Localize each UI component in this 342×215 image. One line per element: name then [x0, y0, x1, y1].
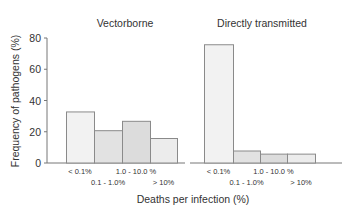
panel-title: Vectorborne: [97, 17, 154, 29]
y-tick-label: 80: [29, 32, 41, 44]
bar: [234, 151, 261, 163]
y-tick-label: 60: [29, 63, 41, 75]
y-tick-label: 0: [35, 157, 41, 169]
bar: [151, 139, 178, 164]
panel-directly-transmitted: Directly transmitted< 0.1%0.1 - 1.0%1.0 …: [190, 17, 342, 187]
x-tick-label: < 0.1%: [68, 167, 92, 176]
bar: [261, 154, 288, 163]
x-tick-label: 1.0 - 10.0 %: [253, 167, 294, 176]
y-tick-label: 40: [29, 95, 41, 107]
x-axis-label: Deaths per infection (%): [137, 193, 250, 205]
x-tick-label: > 10%: [153, 178, 175, 187]
bar: [205, 45, 234, 163]
y-axis-label: Frequency of pathogens (%): [9, 35, 21, 168]
panel-title: Directly transmitted: [217, 17, 307, 29]
y-axis: 020406080: [29, 32, 47, 169]
bar: [95, 131, 123, 163]
bar: [288, 154, 316, 163]
bar: [67, 112, 95, 163]
x-tick-label: 0.1 - 1.0%: [91, 178, 126, 187]
x-tick-label: > 10%: [290, 178, 312, 187]
y-tick-label: 20: [29, 126, 41, 138]
x-tick-label: 0.1 - 1.0%: [229, 178, 264, 187]
chart-panels: Vectorborne< 0.1%0.1 - 1.0%1.0 - 10.0 %>…: [47, 17, 342, 187]
chart: 020406080 Frequency of pathogens (%) Vec…: [0, 0, 342, 215]
x-tick-label: < 0.1%: [207, 167, 231, 176]
x-tick-label: 1.0 - 10.0 %: [116, 167, 157, 176]
bar: [123, 121, 151, 163]
panel-vectorborne: Vectorborne< 0.1%0.1 - 1.0%1.0 - 10.0 %>…: [47, 17, 185, 187]
